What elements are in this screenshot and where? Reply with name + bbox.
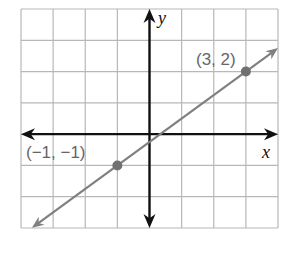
plotted-line [32,48,278,228]
point-label-a: (−1, −1) [26,143,86,162]
x-axis-label: x [261,142,270,162]
axes [21,9,278,228]
point-label-b: (3, 2) [196,50,236,69]
line-segment [38,53,271,223]
data-point [112,160,122,170]
data-point [241,67,251,77]
line-arrow-up-right-icon [265,48,278,59]
line-arrow-down-left-icon [32,217,45,228]
y-axis-label: y [156,8,166,28]
coordinate-plane: x y (−1, −1) (3, 2) [0,0,288,254]
